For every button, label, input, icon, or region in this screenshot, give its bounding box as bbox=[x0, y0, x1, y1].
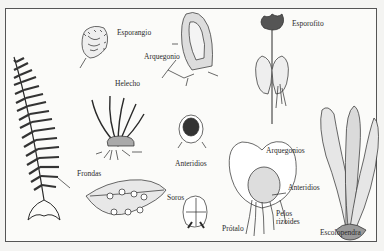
sporophyte-illustration bbox=[256, 14, 289, 124]
label-esporofito: Esporofito bbox=[292, 20, 324, 28]
frond-illustration bbox=[14, 57, 60, 220]
label-arquegonios: Arquegonios bbox=[266, 147, 305, 155]
hartstongue-fern-illustration bbox=[321, 106, 379, 240]
archegonium-illustration bbox=[162, 13, 218, 87]
label-frondas: Frondas bbox=[77, 170, 101, 178]
label-anteridios-prothallus: Anteridios bbox=[288, 184, 320, 192]
fern-lifecycle-illustration bbox=[0, 0, 384, 251]
dehiscing-sporangium-illustration bbox=[183, 196, 207, 228]
label-esporangio: Esporangio bbox=[117, 29, 151, 37]
sori-leaf-illustration bbox=[86, 180, 166, 215]
label-escolopendra: Escolopendra bbox=[320, 229, 361, 237]
label-helecho: Helecho bbox=[115, 80, 140, 88]
sporangium-illustration bbox=[80, 26, 108, 68]
antheridium-illustration bbox=[178, 115, 206, 148]
young-fern-illustration bbox=[92, 96, 144, 160]
label-rizoides: rizoides bbox=[276, 218, 300, 226]
label-protalo: Prótalo bbox=[222, 225, 244, 233]
label-anteridios-top: Anteridios bbox=[175, 160, 207, 168]
label-soros: Soros bbox=[167, 194, 184, 202]
label-arquegonio: Arquegonio bbox=[144, 53, 180, 61]
